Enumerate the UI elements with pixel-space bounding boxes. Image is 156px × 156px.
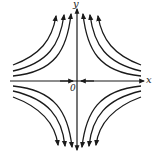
axes bbox=[10, 9, 144, 150]
trajectory-tl-1 bbox=[13, 16, 56, 65]
saddle-phase-portrait bbox=[0, 0, 156, 156]
y-axis-label: y bbox=[73, 0, 79, 9]
trajectory-bl-1 bbox=[13, 97, 58, 145]
x-axis-label: x bbox=[146, 75, 152, 85]
trajectory-tr-2 bbox=[90, 15, 141, 71]
trajectory-tr-1 bbox=[98, 16, 141, 65]
trajectory-tl-2 bbox=[13, 15, 64, 71]
trajectory-br-1 bbox=[96, 97, 141, 145]
origin-label: 0 bbox=[70, 84, 76, 93]
